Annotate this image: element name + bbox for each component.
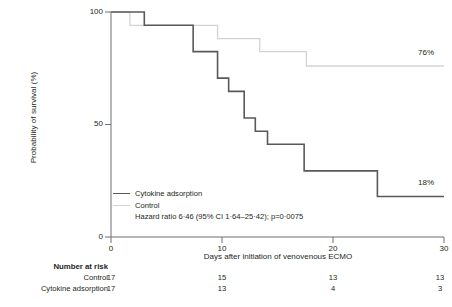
risk-value-cytokine-day0: 17	[99, 284, 123, 293]
survival-curve-cytokine-adsorption	[111, 12, 444, 197]
y-axis-title: Probability of survival (%)	[29, 38, 38, 198]
risk-value-control-day10: 15	[210, 273, 234, 282]
risk-value-cytokine-day20: 4	[321, 284, 345, 293]
risk-row-label-cytokine-adsorption: Cytokine adsorption	[0, 284, 108, 293]
control-endpoint-label: 76%	[418, 48, 434, 57]
risk-row-label-control: Control	[0, 273, 108, 282]
kaplan-meier-survival-chart: Probability of survival (%) 100 50 0 0 1…	[0, 0, 452, 307]
y-tick-label-0: 0	[77, 232, 103, 241]
survival-curve-control	[111, 12, 444, 66]
risk-value-control-day0: 17	[99, 273, 123, 282]
legend-entry-control: Control	[113, 200, 303, 212]
risk-value-control-day20: 13	[321, 273, 345, 282]
cytokine-endpoint-label: 18%	[418, 178, 434, 187]
legend-entry-hazard-ratio: Hazard ratio 6·46 (95% CI 1·64–25·42); p…	[113, 211, 303, 223]
risk-value-cytokine-day30: 3	[428, 284, 452, 293]
chart-legend: Cytokine adsorption Control Hazard ratio…	[113, 188, 303, 223]
risk-value-cytokine-day10: 13	[210, 284, 234, 293]
legend-label-cytokine-adsorption: Cytokine adsorption	[135, 188, 202, 200]
y-tick-label-50: 50	[77, 119, 103, 128]
legend-label-control: Control	[135, 200, 159, 212]
y-tick-label-100: 100	[77, 7, 103, 16]
legend-entry-cytokine-adsorption: Cytokine adsorption	[113, 188, 303, 200]
legend-line-swatch-cytokine-icon	[113, 193, 130, 194]
x-axis-title: Days after initiation of venovenous ECMO	[111, 252, 445, 261]
number-at-risk-title: Number at risk	[0, 262, 108, 271]
legend-line-swatch-control-icon	[113, 205, 130, 206]
risk-value-control-day30: 13	[428, 273, 452, 282]
hazard-ratio-annotation: Hazard ratio 6·46 (95% CI 1·64–25·42); p…	[135, 211, 303, 223]
